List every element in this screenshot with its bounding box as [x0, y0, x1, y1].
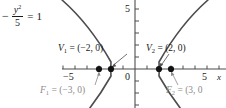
label-f1-sub: 1 — [46, 89, 49, 96]
label-v2-sub: 2 — [152, 47, 155, 54]
label-f1: F1 = (−3, 0) — [40, 86, 85, 96]
y-axis-ticks — [135, 9, 139, 105]
label-f2-value: = (3, 0 — [175, 85, 203, 95]
vertex-point-v2 — [156, 66, 162, 72]
label-f2: F2 = (3, 0 — [166, 86, 203, 96]
label-f2-name: F — [166, 85, 172, 95]
label-v2-value: = (2, 0) — [155, 43, 186, 53]
label-v1-name: V — [58, 43, 64, 53]
y-tick-label-5: 5 — [125, 4, 130, 14]
x-tick-label-5: 5 — [202, 72, 207, 82]
label-v1-sub: 1 — [64, 47, 67, 54]
label-v2-name: V — [146, 43, 152, 53]
label-v1: V1 = (−2, 0) — [58, 44, 103, 54]
label-f2-sub: 2 — [172, 89, 175, 96]
v1-leader-line — [113, 54, 127, 66]
x-tick-label-neg5: −5 — [63, 72, 74, 82]
hyperbola-figure: − y2 5 = 1 — [0, 0, 226, 108]
x-axis-label: x — [217, 73, 221, 82]
label-f1-name: F — [40, 85, 46, 95]
label-f1-value: = (−3, 0) — [49, 85, 85, 95]
focus-point-f2 — [168, 66, 174, 72]
label-v2: V2 = (2, 0) — [146, 44, 186, 54]
focus-point-f1 — [96, 66, 102, 72]
vertex-point-v1 — [108, 66, 114, 72]
label-v1-value: = (−2, 0) — [67, 43, 103, 53]
origin-label: 0 — [125, 72, 130, 82]
